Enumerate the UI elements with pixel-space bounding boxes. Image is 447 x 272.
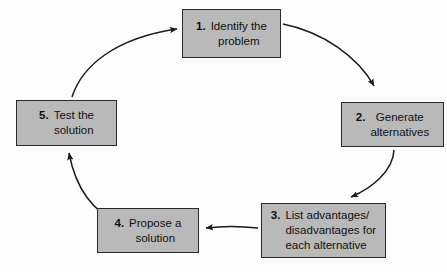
connector-2-to-3	[351, 150, 394, 197]
step-1-label: Identify the problem	[211, 19, 267, 48]
connector-5-to-1	[72, 29, 177, 97]
connector-1-to-2	[283, 24, 374, 86]
step-box-4[interactable]: 4. Propose a solution	[97, 208, 199, 253]
problem-solving-cycle-diagram: 1. Identify the problem 2. Generate alte…	[0, 0, 447, 272]
step-box-1[interactable]: 1. Identify the problem	[182, 9, 281, 58]
step-box-5[interactable]: 5. Test the solution	[16, 100, 117, 146]
step-2-label: Generate alternatives	[370, 110, 429, 139]
step-3-number: 3.	[271, 208, 281, 223]
connector-3-to-4	[206, 227, 258, 229]
step-4-number: 4.	[114, 216, 124, 231]
step-1-number: 1.	[196, 19, 206, 34]
step-5-number: 5.	[39, 108, 49, 123]
step-2-number: 2.	[356, 110, 366, 125]
step-5-label: Test the solution	[54, 108, 94, 137]
step-4-label: Propose a solution	[129, 216, 181, 245]
step-box-3[interactable]: 3. List advantages/ disadvantages for ea…	[261, 203, 386, 258]
step-3-label: List advantages/ disadvantages for each …	[285, 208, 376, 252]
step-box-2[interactable]: 2. Generate alternatives	[341, 102, 444, 147]
